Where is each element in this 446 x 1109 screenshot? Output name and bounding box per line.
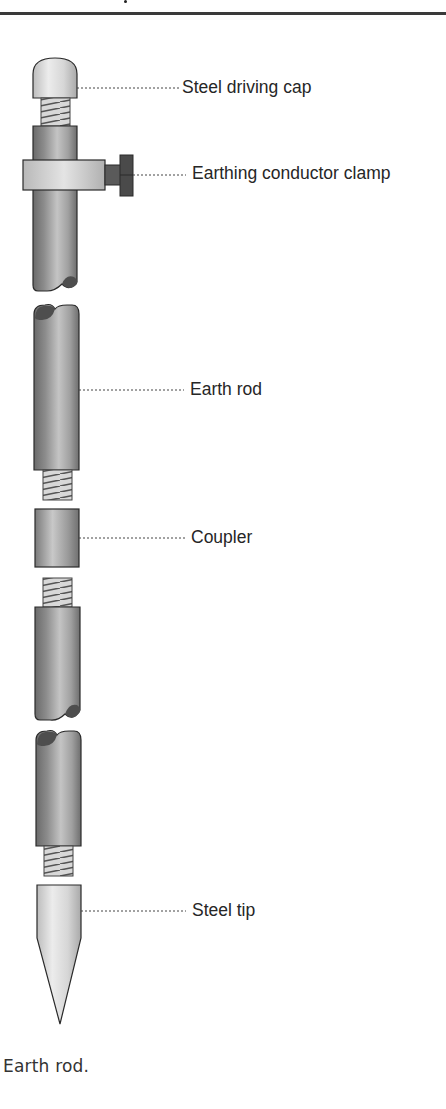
label-earthing-conductor-clamp: Earthing conductor clamp — [192, 165, 390, 183]
coupler — [35, 509, 79, 567]
earth-rod — [34, 305, 79, 501]
steel-tip — [37, 885, 81, 1024]
earthing-conductor-clamp — [23, 155, 133, 196]
leader-lines — [77, 88, 186, 911]
label-earth-rod: Earth rod — [190, 381, 262, 399]
upper-rod-section — [33, 126, 77, 291]
label-coupler: Coupler — [191, 529, 252, 547]
label-steel-driving-cap: Steel driving cap — [182, 79, 311, 97]
steel-driving-cap — [33, 58, 77, 126]
label-steel-tip: Steel tip — [192, 902, 255, 920]
figure-caption: Earth rod. — [3, 1056, 89, 1076]
lower-rod-section — [35, 578, 80, 720]
bottom-rod-section — [36, 731, 81, 877]
